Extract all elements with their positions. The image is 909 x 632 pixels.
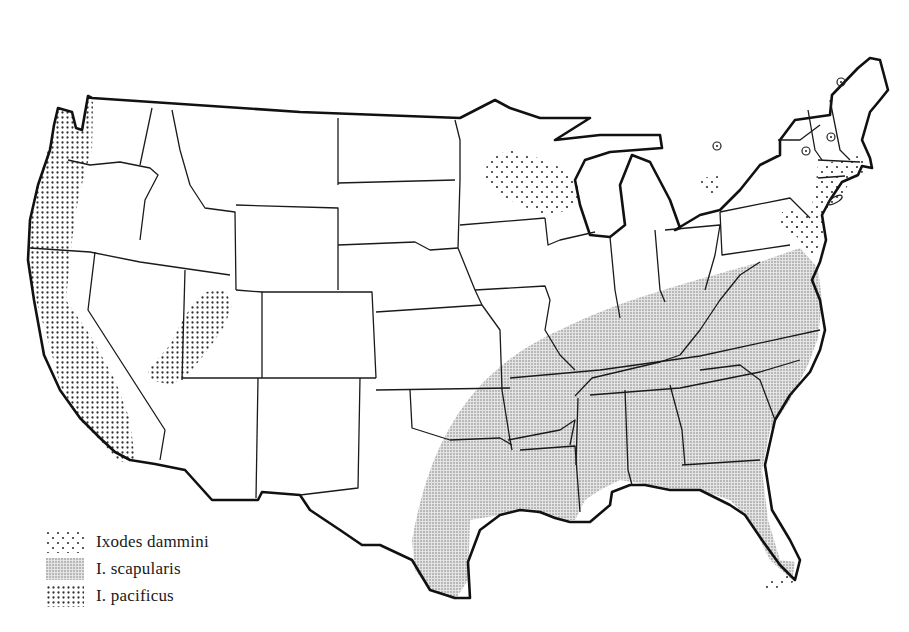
dot-grid-swatch-icon <box>46 585 84 607</box>
legend-label: Ixodes dammini <box>96 532 209 552</box>
legend-label: I. pacificus <box>96 586 174 606</box>
sparse-dot-swatch-icon <box>46 531 84 553</box>
legend-item-dammini: Ixodes dammini <box>46 528 209 555</box>
pacificus-coast-region <box>28 100 135 462</box>
dammini-fl-keys <box>760 575 794 592</box>
legend-item-pacificus: I. pacificus <box>46 582 209 609</box>
stipple-swatch-icon <box>46 558 84 580</box>
pacificus-utah-region <box>148 290 232 385</box>
legend-item-scapularis: I. scapularis <box>46 555 209 582</box>
dammini-pa-region <box>778 210 805 235</box>
legend-label: I. scapularis <box>96 559 181 579</box>
dammini-wisconsin-region <box>484 150 582 215</box>
map-legend: Ixodes dammini I. scapularis I. pacificu… <box>46 528 209 609</box>
dammini-ny-region <box>700 176 720 194</box>
